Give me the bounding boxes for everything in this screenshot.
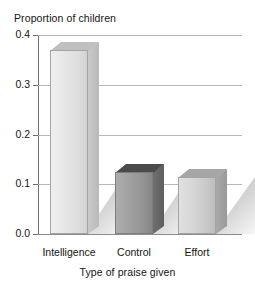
x-axis-title: Type of praise given <box>0 266 255 278</box>
bar-control <box>115 164 164 234</box>
bar-side-face <box>216 169 227 234</box>
y-axis-tick <box>33 85 38 86</box>
bar-intelligence <box>50 42 99 234</box>
y-axis-title: Proportion of children <box>14 12 116 24</box>
y-axis-tick <box>33 234 38 235</box>
y-axis-tick-label: 0.0 <box>4 227 30 239</box>
y-axis-tick <box>33 135 38 136</box>
y-axis-tick-label: 0.1 <box>4 177 30 189</box>
gridline <box>38 234 242 235</box>
bar-front-face <box>115 172 153 234</box>
bar-front-face <box>50 50 88 234</box>
gridline <box>38 35 242 36</box>
bar-chart: Proportion of children 0.40.30.20.10.0 I… <box>0 0 255 285</box>
y-axis-tick-label: 0.3 <box>4 78 30 90</box>
y-axis-tick-label: 0.4 <box>4 28 30 40</box>
x-axis-label-effort: Effort <box>156 246 238 258</box>
y-axis-tick <box>33 184 38 185</box>
bar-side-face <box>153 164 164 234</box>
bar-side-face <box>88 42 99 234</box>
y-axis-tick-label: 0.2 <box>4 128 30 140</box>
bar-front-face <box>178 177 216 234</box>
y-axis-tick <box>33 35 38 36</box>
bar-effort <box>178 169 227 234</box>
